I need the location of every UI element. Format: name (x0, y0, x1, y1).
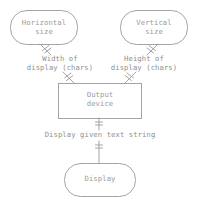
node-shape-display[interactable] (65, 164, 136, 197)
node-shape-vertical-size[interactable] (121, 11, 188, 45)
node-shape-output-device[interactable] (59, 84, 142, 119)
node-shape-horizontal-size[interactable] (11, 11, 78, 45)
diagram-graphics (0, 0, 197, 203)
edge-line-label-to-output-device-right (125, 72, 136, 83)
diagram-canvas: Horizontal size Vertical size Output dev… (0, 0, 197, 203)
